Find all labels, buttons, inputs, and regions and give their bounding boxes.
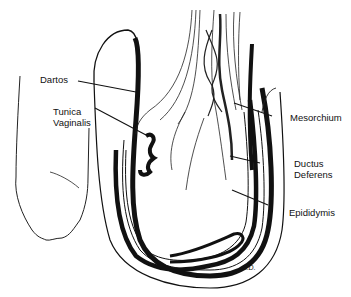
mesorchium-band xyxy=(250,44,252,170)
scrotal-wall xyxy=(94,30,284,288)
anatomy-diagram: A.D. xyxy=(0,0,351,297)
label-dartos: Dartos xyxy=(40,74,68,85)
spermatic-cord xyxy=(136,10,242,190)
vaginalis-text: Vaginalis xyxy=(53,117,91,128)
label-mesorchium: Mesorchium xyxy=(290,112,342,123)
tunica-vaginalis-fold xyxy=(140,135,154,175)
leader-lines xyxy=(78,81,272,205)
dartos-text: Dartos xyxy=(40,74,68,85)
penis-outline xyxy=(16,76,89,240)
epididymis-text: Epididymis xyxy=(289,207,335,218)
label-tunica-vaginalis: Tunica Vaginalis xyxy=(53,106,91,128)
label-epididymis: Epididymis xyxy=(289,207,335,218)
artist-signature: A.D. xyxy=(241,264,256,271)
deferens-text: Deferens xyxy=(294,169,333,180)
ductus-text: Ductus xyxy=(294,158,333,169)
tunica-text: Tunica xyxy=(53,106,91,117)
label-ductus-deferens: Ductus Deferens xyxy=(294,158,333,180)
mesorchium-text: Mesorchium xyxy=(290,112,342,123)
